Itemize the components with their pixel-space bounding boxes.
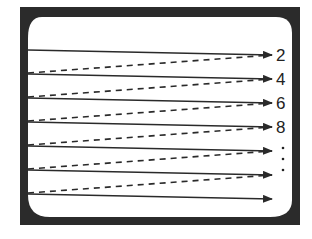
continuation-dot bbox=[282, 169, 285, 172]
continuation-dot bbox=[282, 158, 285, 161]
continuation-dot bbox=[282, 147, 285, 150]
scan-line-label: 8 bbox=[276, 118, 285, 137]
scan-line-label: 6 bbox=[276, 94, 285, 113]
interlaced-scan-diagram: 2468 bbox=[0, 0, 312, 239]
scan-line-label: 4 bbox=[276, 70, 285, 89]
scan-line-label: 2 bbox=[276, 46, 285, 65]
tv-screen bbox=[28, 17, 292, 217]
